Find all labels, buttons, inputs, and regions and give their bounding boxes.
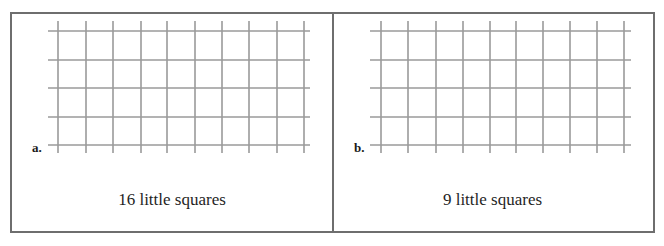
panel-a: a. 16 little squares: [12, 14, 332, 231]
panel-label-a: a.: [32, 141, 42, 154]
caption-b: 9 little squares: [334, 191, 651, 208]
caption-a: 16 little squares: [12, 191, 332, 208]
grid-b: [334, 14, 651, 174]
panel-label-b: b.: [354, 141, 364, 154]
panel-b: b. 9 little squares: [334, 14, 651, 231]
grid-a: [12, 14, 332, 174]
